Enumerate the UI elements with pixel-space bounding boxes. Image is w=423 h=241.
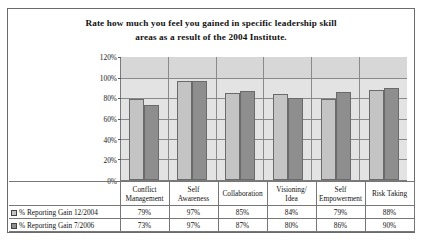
- cell-value: 73%: [120, 219, 169, 232]
- y-axis: 120% 100% 80% 60% 40% 20% 0%: [89, 57, 119, 181]
- y-tick-label-40: 40%: [103, 135, 117, 144]
- legend-item-series-b[interactable]: % Reporting Gain 7/2006: [9, 219, 120, 232]
- cell-value: 90%: [365, 219, 414, 232]
- cell-value: 86%: [316, 219, 365, 232]
- table-row-series-a: % Reporting Gain 12/2004 79% 97% 85% 84%…: [9, 206, 414, 219]
- column-header-line-1: Conflict: [121, 185, 169, 194]
- column-header-line-2: Empowerment: [317, 194, 365, 203]
- bar: [177, 81, 192, 180]
- cell-value: 88%: [365, 206, 414, 219]
- cell-value: 79%: [120, 206, 169, 219]
- column-header-line-1: Self: [170, 185, 218, 194]
- plot-area: [120, 57, 407, 181]
- bar-group: [169, 57, 217, 180]
- legend-swatch-icon: [11, 223, 17, 229]
- legend-item-series-a[interactable]: % Reporting Gain 12/2004: [9, 206, 120, 219]
- bar: [192, 81, 207, 180]
- table-header-row: Conflict Management Self Awareness Colla…: [9, 182, 414, 206]
- cell-value: 79%: [316, 206, 365, 219]
- bar-group: [360, 57, 407, 180]
- legend-label-series-b: % Reporting Gain 7/2006: [19, 221, 94, 230]
- chart-title-line-1: Rate how much you feel you gained in spe…: [8, 17, 414, 31]
- bar-group: [121, 57, 169, 180]
- bar: [129, 99, 144, 180]
- bar: [384, 88, 399, 180]
- column-header-line-2: Management: [121, 194, 169, 203]
- bars-layer: [121, 57, 407, 180]
- bar-group: [312, 57, 360, 180]
- column-header-self-awareness: Self Awareness: [169, 182, 218, 206]
- legend-label-series-a: % Reporting Gain 12/2004: [19, 208, 98, 217]
- bar: [273, 94, 288, 180]
- data-table: Conflict Management Self Awareness Colla…: [9, 181, 415, 232]
- y-tick-label-60: 60%: [103, 115, 117, 124]
- chart-title: Rate how much you feel you gained in spe…: [8, 17, 414, 44]
- column-header-conflict-management: Conflict Management: [120, 182, 169, 206]
- bar: [321, 99, 336, 180]
- column-header-line-2: Awareness: [170, 194, 218, 203]
- column-header-collaboration: Collaboration: [218, 182, 267, 206]
- column-header-line-1: Collaboration: [219, 189, 267, 198]
- table-row-series-b: % Reporting Gain 7/2006 73% 97% 87% 80% …: [9, 219, 414, 232]
- column-header-self-empowerment: Self Empowerment: [316, 182, 365, 206]
- column-header-line-1: Self: [317, 185, 365, 194]
- cell-value: 97%: [169, 206, 218, 219]
- bar: [225, 93, 240, 180]
- chart-title-line-2: areas as a result of the 2004 Institute.: [8, 31, 414, 45]
- bar-group: [264, 57, 312, 180]
- cell-value: 85%: [218, 206, 267, 219]
- cell-value: 87%: [218, 219, 267, 232]
- chart-frame: Rate how much you feel you gained in spe…: [7, 8, 415, 233]
- bar-group: [217, 57, 265, 180]
- cell-value: 80%: [267, 219, 316, 232]
- bar: [240, 91, 255, 180]
- y-tick-label-20: 20%: [103, 156, 117, 165]
- bar: [288, 98, 303, 180]
- column-header-line-1: Visioning/: [268, 185, 316, 194]
- bar: [144, 105, 159, 180]
- plot-region: 120% 100% 80% 60% 40% 20% 0%: [89, 57, 407, 181]
- legend-swatch-icon: [11, 210, 17, 216]
- column-header-line-2: Idea: [268, 194, 316, 203]
- y-tick-label-100: 100%: [100, 73, 117, 82]
- cell-value: 97%: [169, 219, 218, 232]
- bar: [369, 90, 384, 180]
- column-header-visioning-idea: Visioning/ Idea: [267, 182, 316, 206]
- table-corner-cell: [9, 182, 120, 206]
- column-header-risk-taking: Risk Taking: [365, 182, 414, 206]
- bar: [336, 92, 351, 180]
- y-tick-label-80: 80%: [103, 94, 117, 103]
- column-header-line-1: Risk Taking: [366, 189, 414, 198]
- cell-value: 84%: [267, 206, 316, 219]
- y-tick-label-120: 120%: [100, 53, 117, 62]
